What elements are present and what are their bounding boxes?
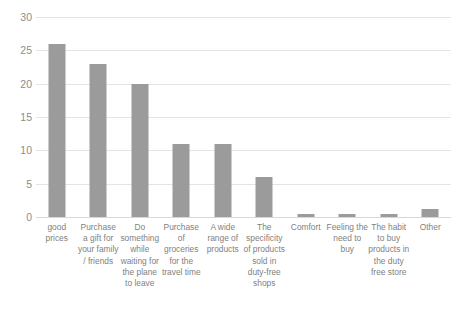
bar [90,64,107,217]
gridline-0 [36,217,451,218]
x-category-label: Purchase of groceries for the travel tim… [161,222,203,278]
y-tick-label-0: 0 [6,212,32,223]
bar [131,84,148,217]
bar [297,214,314,217]
bar-slot [119,17,161,217]
bar-slot [161,17,203,217]
bar-slot [244,17,286,217]
bar-slot [202,17,244,217]
bar-slot [78,17,120,217]
x-category-label: Feeling the need to buy [327,222,369,256]
bar [173,144,190,217]
bar-slot [410,17,452,217]
x-axis-category-labels: good pricesPurchase a gift for your fami… [36,222,451,314]
plot-area [36,17,451,217]
bar [256,177,273,217]
bar [422,209,439,217]
x-category-label: Other [410,222,452,233]
bar [339,214,356,217]
x-category-label: Do something while waiting for the plane… [119,222,161,289]
bar-slot [368,17,410,217]
bar-slot [327,17,369,217]
y-tick-label-20: 20 [6,78,32,89]
x-category-label: The habit to buy products in the duty fr… [368,222,410,278]
bar [214,144,231,217]
y-tick-label-10: 10 [6,145,32,156]
y-tick-label-15: 15 [6,112,32,123]
x-category-label: The specificity of products sold in duty… [244,222,286,289]
bar-slot [36,17,78,217]
y-tick-label-5: 5 [6,178,32,189]
bar-series [36,17,451,217]
y-tick-label-25: 25 [6,45,32,56]
bar [48,44,65,217]
bar-chart: 051015202530 good pricesPurchase a gift … [0,0,457,318]
bar-slot [285,17,327,217]
bar [380,214,397,217]
x-category-label: good prices [36,222,78,244]
x-category-label: Purchase a gift for your family / friend… [78,222,120,267]
x-category-label: A wide range of products [202,222,244,256]
x-category-label: Comfort [285,222,327,233]
y-tick-label-30: 30 [6,12,32,23]
